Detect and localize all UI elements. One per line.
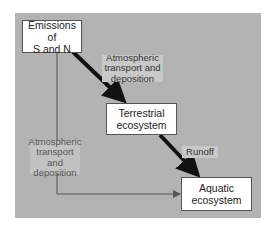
node-aquatic-line2: ecosystem (191, 194, 241, 206)
label-atmospheric-upper: Atmospherictransport anddeposition (102, 55, 163, 82)
label-atmospheric-lower: Atmospherictransport anddeposition (30, 141, 80, 174)
label-line: transport and (29, 147, 82, 168)
label-runoff: Runoff (182, 146, 218, 158)
label-line: deposition (105, 74, 161, 85)
node-aquatic-line1: Aquatic (191, 182, 241, 194)
node-emissions: Emissions ofS and N (22, 20, 82, 53)
node-aquatic: Aquaticecosystem (181, 177, 252, 211)
node-emissions-line2: S and N (23, 43, 81, 55)
node-emissions-line1: Emissions of (23, 19, 81, 43)
node-terrestrial-line1: Terrestrial (116, 107, 166, 119)
label-line: deposition (29, 168, 82, 179)
node-terrestrial: Terrestrialecosystem (106, 103, 177, 135)
node-terrestrial-line2: ecosystem (116, 119, 166, 131)
